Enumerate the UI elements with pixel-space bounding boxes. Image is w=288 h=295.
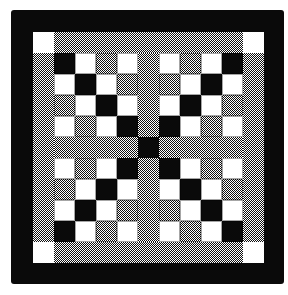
block-square [96, 53, 117, 74]
edge-strip-left [33, 53, 54, 242]
block-square [180, 200, 201, 221]
block-square [54, 95, 75, 116]
block-square [117, 95, 138, 116]
quilt-pattern [33, 32, 264, 264]
block-square [117, 179, 138, 200]
block-square [180, 53, 201, 74]
block-square [222, 116, 243, 137]
edge-strip-bottom [54, 242, 243, 263]
block-square [54, 116, 75, 137]
block-square [96, 74, 117, 95]
block-square [54, 53, 75, 74]
block-square [159, 95, 180, 116]
block-square [159, 221, 180, 242]
block-square [180, 74, 201, 95]
block-square [222, 95, 243, 116]
block-square [117, 74, 138, 95]
corner-square [243, 242, 264, 263]
block-square [54, 221, 75, 242]
block-square [117, 116, 138, 137]
block-square [75, 200, 96, 221]
block-square [96, 200, 117, 221]
block-square [75, 116, 96, 137]
block-square [201, 53, 222, 74]
corner-square [33, 32, 54, 53]
block-square [159, 74, 180, 95]
block-square [117, 200, 138, 221]
block-square [222, 179, 243, 200]
block-square [201, 200, 222, 221]
block-square [96, 221, 117, 242]
block-square [117, 158, 138, 179]
block-square [75, 179, 96, 200]
block-square [159, 200, 180, 221]
block-square [117, 221, 138, 242]
block-square [96, 179, 117, 200]
block-square [180, 158, 201, 179]
center-square [138, 137, 159, 158]
block-square [201, 221, 222, 242]
block-square [222, 74, 243, 95]
block-square [159, 179, 180, 200]
edge-strip-right [243, 53, 264, 242]
block-square [201, 74, 222, 95]
block-square [75, 74, 96, 95]
block-square [222, 200, 243, 221]
block-square [54, 179, 75, 200]
block-square [159, 158, 180, 179]
block-square [222, 158, 243, 179]
block-square [180, 221, 201, 242]
block-square [54, 74, 75, 95]
block-square [180, 116, 201, 137]
block-square [159, 53, 180, 74]
block-square [180, 95, 201, 116]
block-square [201, 179, 222, 200]
corner-square [243, 32, 264, 53]
block-square [75, 95, 96, 116]
block-square [96, 95, 117, 116]
block-square [201, 116, 222, 137]
block-square [117, 53, 138, 74]
block-square [159, 116, 180, 137]
block-square [222, 221, 243, 242]
edge-strip-top [54, 32, 243, 53]
block-square [96, 158, 117, 179]
block-square [75, 53, 96, 74]
block-square [201, 95, 222, 116]
block-square [54, 158, 75, 179]
block-square [201, 158, 222, 179]
block-square [222, 53, 243, 74]
block-square [96, 116, 117, 137]
block-square [54, 200, 75, 221]
block-square [75, 221, 96, 242]
block-square [75, 158, 96, 179]
block-square [180, 179, 201, 200]
corner-square [33, 242, 54, 263]
